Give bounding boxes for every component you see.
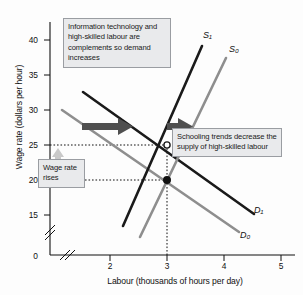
new-equilibrium-point [164,142,170,148]
old-equilibrium-point [163,176,171,184]
x-axis-ticks [110,255,281,261]
curve-label-demand-original: D₀ [240,230,250,240]
demand-shift-arrow [82,118,133,135]
demand-annotation-box: Information technology and high-skilled … [63,18,171,68]
curve-label-supply-original: S₀ [229,44,239,54]
origin-label: 0 [16,251,38,261]
curve-label-demand-new: D₁ [254,205,263,215]
wage-annotation-box: Wage rate rises [38,159,85,188]
x-axis-title: Labour (thousands of hours per day) [55,276,295,286]
x-tick-4: 4 [217,261,231,271]
y-axis-title: Wage rate (dollars per hour) [14,42,24,192]
y-axis-ticks [44,40,50,215]
wage-labour-chart: 40 35 30 25 20 15 0 2 3 4 5 S₁ S₀ D₁ D₀ … [0,0,303,295]
supply-annotation-box: Schooling trends decrease the supply of … [172,128,282,157]
curve-label-supply-new: S₁ [203,30,212,40]
x-tick-2: 2 [103,261,117,271]
x-tick-3: 3 [160,261,174,271]
x-tick-5: 5 [274,261,288,271]
y-tick-15: 15 [16,210,38,220]
